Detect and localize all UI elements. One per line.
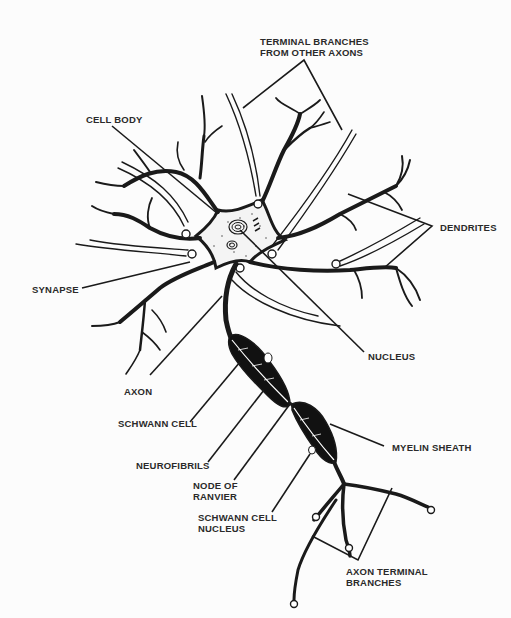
axon-terminals bbox=[291, 484, 435, 608]
myelin-segment-2 bbox=[292, 402, 337, 463]
label-line: SCHWANN CELL bbox=[198, 512, 277, 523]
label-line: BRANCHES bbox=[346, 577, 428, 588]
label-line: NODE OF bbox=[193, 480, 238, 491]
label-line: NUCLEUS bbox=[198, 523, 277, 534]
label-line: AXON TERMINAL bbox=[346, 566, 428, 577]
label-synapse: SYNAPSE bbox=[32, 284, 79, 295]
label-line: RANVIER bbox=[193, 491, 238, 502]
label-line: FROM OTHER AXONS bbox=[260, 47, 369, 58]
label-cell-body: CELL BODY bbox=[86, 114, 143, 125]
label-node-of-ranvier: NODE OF RANVIER bbox=[193, 480, 238, 502]
label-axon: AXON bbox=[124, 386, 152, 397]
label-myelin-sheath: MYELIN SHEATH bbox=[392, 442, 471, 453]
label-dendrites: DENDRITES bbox=[440, 222, 497, 233]
label-terminal-branches-from-other-axons: TERMINAL BRANCHES FROM OTHER AXONS bbox=[260, 36, 369, 58]
label-schwann-cell-nucleus: SCHWANN CELL NUCLEUS bbox=[198, 512, 277, 534]
label-schwann-cell: SCHWANN CELL bbox=[118, 418, 197, 429]
neuron-diagram: TERMINAL BRANCHES FROM OTHER AXONS CELL … bbox=[0, 0, 511, 618]
label-axon-terminal-branches: AXON TERMINAL BRANCHES bbox=[346, 566, 428, 588]
label-nucleus: NUCLEUS bbox=[368, 351, 415, 362]
label-neurofibrils: NEUROFIBRILS bbox=[136, 460, 210, 471]
axon bbox=[225, 264, 344, 484]
label-line: TERMINAL BRANCHES bbox=[260, 36, 369, 47]
